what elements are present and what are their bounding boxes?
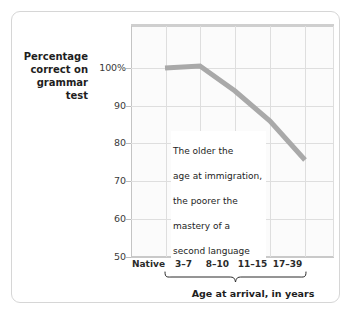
- y-axis-title-line-1: Percentage: [18, 50, 88, 63]
- annotation-line-3: the poorer the: [173, 195, 262, 207]
- y-tick-label-70: 70: [88, 175, 126, 186]
- x-tick-label-8-10: 8–10: [200, 259, 235, 269]
- x-axis-title: Age at arrival, in years: [166, 288, 340, 299]
- annotation-line-2: age at immigration,: [173, 170, 262, 182]
- y-tick-mark-50: [126, 257, 131, 258]
- x-tick-label-11-15: 11–15: [235, 259, 270, 269]
- annotation-line-4: mastery of a: [173, 220, 262, 232]
- y-tick-label-80: 80: [88, 137, 126, 148]
- y-axis-title-line-2: correct on: [18, 63, 88, 76]
- y-axis-title: Percentage correct on grammar test: [18, 50, 88, 102]
- annotation-line-1: The older the: [173, 145, 262, 157]
- x-tick-label-native: Native: [131, 259, 166, 269]
- y-axis-title-line-3: grammar test: [18, 76, 88, 102]
- figure-container: 100% 90 80 70 60 50 Percentage correct o…: [0, 0, 353, 318]
- y-tick-label-90: 90: [88, 100, 126, 111]
- y-axis-tick-labels: 100% 90 80 70 60 50: [88, 0, 126, 318]
- x-tick-label-3-7: 3–7: [166, 259, 201, 269]
- y-tick-label-60: 60: [88, 213, 126, 224]
- y-tick-label-50: 50: [88, 251, 126, 262]
- x-tick-label-17-39: 17–39: [270, 259, 305, 269]
- chart-annotation: The older the age at immigration, the po…: [171, 131, 266, 271]
- x-axis-group-brace: [163, 271, 308, 283]
- y-tick-label-100: 100%: [88, 62, 126, 73]
- annotation-line-5: second language: [173, 245, 262, 257]
